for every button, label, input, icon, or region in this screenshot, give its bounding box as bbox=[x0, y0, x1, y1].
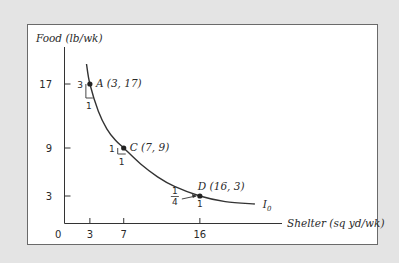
point-label: D (16, 3) bbox=[197, 180, 245, 192]
run-label: 1 bbox=[86, 101, 92, 111]
y-tick-label: 9 bbox=[46, 143, 52, 154]
y-tick-label: 17 bbox=[39, 79, 52, 90]
point-label: C (7, 9) bbox=[130, 141, 170, 153]
data-point-marker bbox=[87, 81, 92, 86]
run-label: 1 bbox=[197, 199, 203, 209]
point-D: 141D (16, 3) bbox=[171, 180, 245, 209]
rise-numerator: 1 bbox=[172, 186, 178, 196]
curve-label-i0: I0 bbox=[262, 198, 272, 213]
point-label: A (3, 17) bbox=[95, 77, 142, 89]
x-axis-label: Shelter (sq yd/wk) bbox=[287, 217, 385, 229]
rise-denominator: 4 bbox=[172, 197, 178, 207]
x-tick-label: 3 bbox=[87, 229, 93, 240]
origin-label: 0 bbox=[55, 229, 61, 240]
rise-label: 1 bbox=[109, 144, 115, 154]
y-axis-label: Food (lb/wk) bbox=[35, 32, 103, 44]
x-tick-label: 16 bbox=[193, 229, 206, 240]
data-point-marker bbox=[197, 193, 202, 198]
data-point-marker bbox=[121, 145, 126, 150]
indifference-curve-chart: Food (lb/wk) Shelter (sq yd/wk) 0 3716 1… bbox=[0, 0, 399, 263]
y-tick-label: 3 bbox=[46, 191, 52, 202]
rise-label: 3 bbox=[77, 80, 83, 90]
x-tick-label: 7 bbox=[121, 229, 127, 240]
point-A: 31A (3, 17) bbox=[77, 77, 142, 111]
run-label: 1 bbox=[119, 157, 125, 167]
